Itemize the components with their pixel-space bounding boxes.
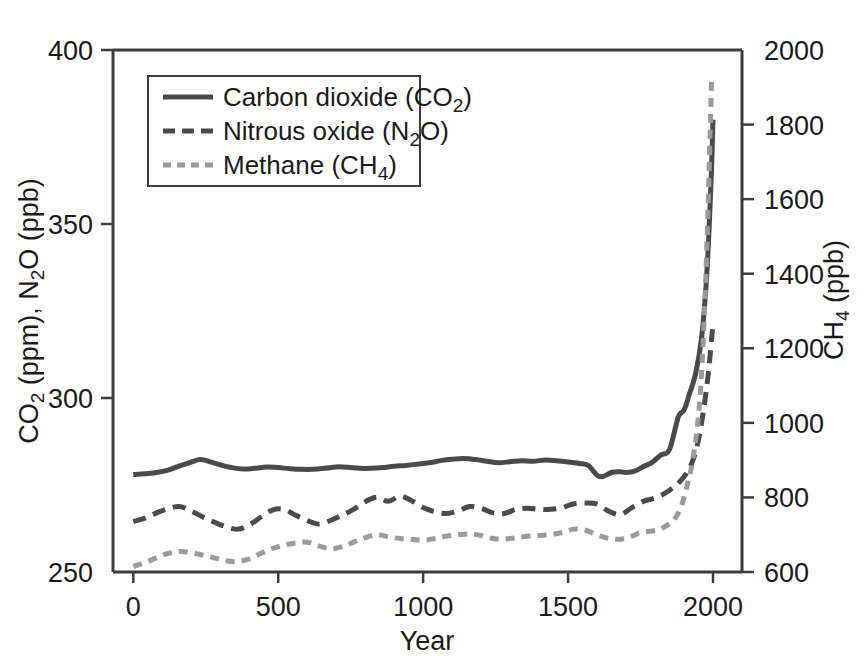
legend-label-co2: Carbon dioxide (CO2): [223, 82, 472, 116]
y-right-tick-label: 600: [764, 558, 809, 588]
x-tick-label: 1500: [538, 592, 598, 622]
y-left-tick-label: 350: [48, 210, 93, 240]
y-axis-left-title: CO2 (ppm), N2O (ppb): [14, 178, 48, 444]
y-right-tick-label: 1400: [764, 260, 824, 290]
svg-text:CH4 (ppb): CH4 (ppb): [819, 240, 853, 360]
y-left-tick-label: 250: [48, 558, 93, 588]
series-line-n2o: [133, 325, 713, 529]
y-right-tick-label: 1800: [764, 111, 824, 141]
y-right-tick-label: 2000: [764, 36, 824, 66]
x-tick-label: 1000: [393, 592, 453, 622]
y-left-tick-label: 400: [48, 36, 93, 66]
legend: Carbon dioxide (CO2) Nitrous oxide (N2O)…: [148, 76, 472, 186]
y-axis-right-title: CH4 (ppb): [819, 240, 853, 360]
y-right-tick-label: 800: [764, 483, 809, 513]
greenhouse-gas-chart: 0500100015002000250300350400600800100012…: [0, 0, 864, 667]
x-axis-title: Year: [400, 626, 455, 656]
chart-canvas: 0500100015002000250300350400600800100012…: [0, 0, 864, 667]
y-right-tick-label: 1000: [764, 409, 824, 439]
y-left-tick-label: 300: [48, 384, 93, 414]
x-tick-label: 2000: [683, 592, 743, 622]
y-right-tick-label: 1600: [764, 185, 824, 215]
x-tick-label: 0: [126, 592, 141, 622]
svg-text:CO2 (ppm), N2O (ppb): CO2 (ppm), N2O (ppb): [14, 178, 48, 444]
y-right-tick-label: 1200: [764, 334, 824, 364]
x-tick-label: 500: [256, 592, 301, 622]
legend-label-ch4: Methane (CH4): [223, 150, 397, 184]
